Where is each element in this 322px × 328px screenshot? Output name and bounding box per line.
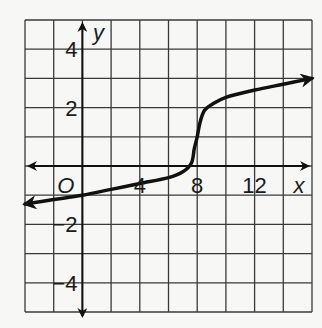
x-tick-label: 8 xyxy=(191,173,203,198)
y-axis-label: y xyxy=(91,20,106,45)
y-tick-label: 4 xyxy=(65,37,77,62)
y-tick-label: −4 xyxy=(52,271,77,296)
y-tick-label: 2 xyxy=(65,96,77,121)
x-tick-label: 4 xyxy=(134,173,146,198)
function-graph: 481242−2−4Oxy xyxy=(0,0,322,328)
x-tick-label: 12 xyxy=(242,173,266,198)
axis-labels: 481242−2−4Oxy xyxy=(52,20,305,296)
origin-label: O xyxy=(57,173,74,198)
y-tick-label: −2 xyxy=(52,212,77,237)
x-axis-label: x xyxy=(293,173,306,198)
